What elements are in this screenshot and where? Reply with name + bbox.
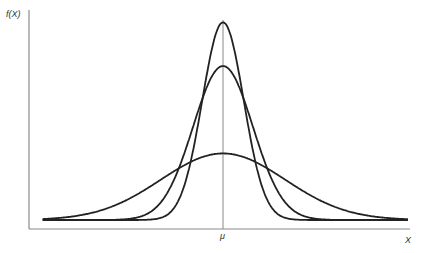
- x-tick-mu: μ: [219, 231, 225, 241]
- curves-group: [43, 22, 408, 220]
- curve-medium: [43, 66, 408, 220]
- normal-distributions-chart: f(X) μ X: [0, 0, 422, 253]
- curve-flat-wide: [43, 153, 408, 219]
- x-axis-label: X: [404, 235, 412, 245]
- curve-tall-narrow: [43, 22, 408, 220]
- y-axis-label: f(X): [6, 9, 21, 19]
